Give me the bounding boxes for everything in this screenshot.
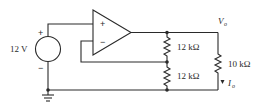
circuit-diagram: + − 12 V + − 12 kΩ 12 kΩ 10 kΩ V o I o	[0, 0, 259, 107]
vo-subscript: o	[224, 21, 227, 27]
op-amp-plus-sign: +	[100, 19, 105, 29]
resistor-r1: 12 kΩ	[164, 33, 200, 63]
voltage-source: + − 12 V	[10, 28, 61, 73]
current-arrow-icon	[221, 80, 225, 84]
resistor-r2-zigzag	[164, 62, 170, 90]
op-amp: + −	[93, 10, 131, 55]
wire-source-to-plus	[48, 24, 93, 37]
source-circle	[36, 37, 61, 62]
ground-icon	[42, 90, 54, 101]
io-subscript: o	[232, 83, 235, 89]
node-output	[165, 31, 169, 35]
op-amp-minus-sign: −	[100, 37, 105, 47]
resistor-load-zigzag	[215, 33, 221, 91]
node-bottom	[165, 88, 169, 92]
resistor-r2-label: 12 kΩ	[177, 71, 200, 81]
source-plus-sign: +	[38, 28, 43, 38]
resistor-r2: 12 kΩ	[164, 62, 200, 90]
op-amp-triangle	[93, 10, 131, 55]
resistor-load: 10 kΩ	[215, 33, 251, 91]
node-middle	[165, 60, 169, 64]
source-minus-sign: −	[38, 63, 43, 73]
resistor-load-label: 10 kΩ	[228, 59, 251, 69]
output-current-label: I o	[227, 78, 235, 89]
source-label: 12 V	[10, 44, 28, 54]
output-voltage-label: V o	[218, 16, 227, 27]
resistor-r1-label: 12 kΩ	[177, 42, 200, 52]
wire-feedback	[81, 41, 167, 62]
resistor-r1-zigzag	[164, 33, 170, 63]
